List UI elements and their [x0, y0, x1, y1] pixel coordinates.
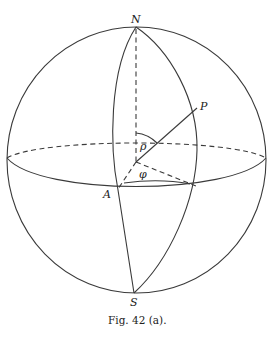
meridian-through-p	[134, 27, 197, 293]
label-south: S	[130, 296, 138, 309]
figure-caption: Fig. 42 (a).	[108, 314, 167, 326]
label-angle-rho: ρ	[139, 140, 147, 153]
label-angle-phi: φ	[139, 168, 147, 181]
radius-to-a	[118, 162, 136, 189]
label-point-p: P	[199, 100, 208, 113]
label-point-a: A	[102, 188, 111, 201]
angle-arc-phi	[124, 181, 190, 184]
meridian-through-a	[113, 27, 136, 293]
label-north: N	[130, 13, 141, 26]
sphere-diagram: N S A P ρ φ Fig. 42 (a).	[0, 0, 280, 337]
